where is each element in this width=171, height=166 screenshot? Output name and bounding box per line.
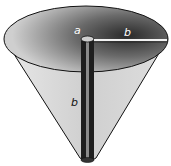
label-b-height: b [71, 96, 78, 109]
label-b-top: b [124, 26, 131, 39]
cone-diagram: a b b [0, 0, 171, 166]
label-a: a [74, 24, 81, 37]
